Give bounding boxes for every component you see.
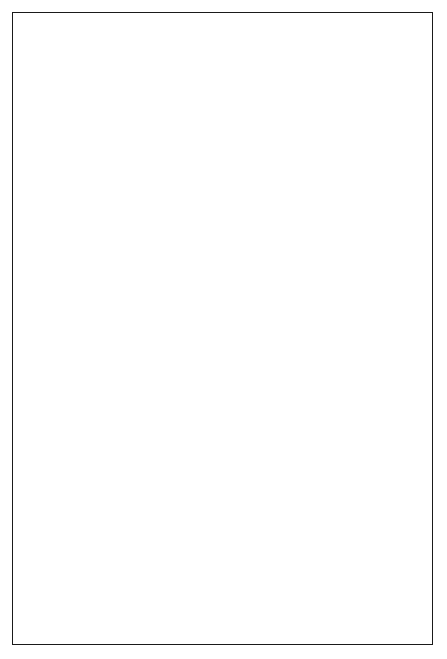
line-chart-plot bbox=[0, 0, 447, 659]
